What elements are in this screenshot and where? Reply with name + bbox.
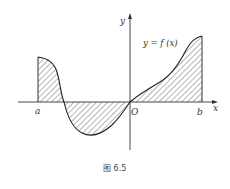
function-label: y = f (x) <box>142 38 178 48</box>
y-axis <box>128 13 132 150</box>
b-label: b <box>197 107 203 117</box>
a-label: a <box>35 106 40 116</box>
shaded-region <box>30 30 210 145</box>
y-axis-arrow-icon <box>128 13 132 19</box>
origin-label: O <box>131 107 139 117</box>
figure-caption: 图 6.5 <box>103 164 126 173</box>
figure-canvas: y x O a b y = f (x) 图 6.5 <box>0 0 230 189</box>
x-axis-label: x <box>213 103 218 113</box>
diagram-svg: y x O a b y = f (x) 图 6.5 <box>0 0 230 189</box>
y-axis-label: y <box>119 16 126 26</box>
